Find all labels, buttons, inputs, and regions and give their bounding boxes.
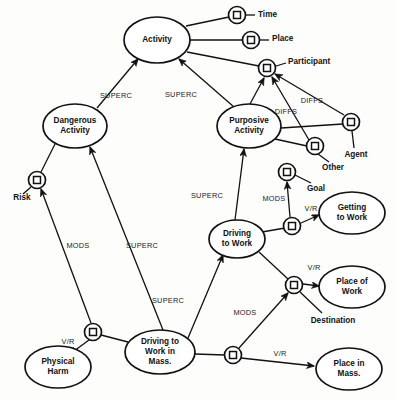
concept-label: Gettingto Work xyxy=(337,203,368,222)
graph-edge xyxy=(188,255,223,338)
edge-label: V/R xyxy=(62,337,75,346)
attribute-label: Time xyxy=(258,10,277,19)
concept-node[interactable]: Driving toWork inMass. xyxy=(125,330,195,374)
edge-label: DIFFS xyxy=(301,96,323,105)
relation-node[interactable] xyxy=(284,218,301,235)
concept-label: Activity xyxy=(142,35,172,44)
concept-nodes-layer: ActivityDangerousActivityPurposiveActivi… xyxy=(25,17,385,390)
relation-node[interactable] xyxy=(85,324,102,341)
relation-node[interactable] xyxy=(307,138,324,155)
concept-node[interactable]: PhysicalHarm xyxy=(25,346,91,388)
edge-label: SUPERC xyxy=(152,296,184,305)
graph-edge xyxy=(259,252,288,279)
edge-label: SUPERC xyxy=(126,241,158,250)
concept-node[interactable]: Drivingto Work xyxy=(209,220,265,258)
relation-square-icon xyxy=(264,65,271,72)
graph-edge xyxy=(281,124,343,128)
edge-label: SUPERC xyxy=(100,91,132,100)
relation-node[interactable] xyxy=(279,164,296,181)
edge-label: V/R xyxy=(274,349,287,358)
graph-edge xyxy=(239,293,288,348)
relation-square-icon xyxy=(34,177,41,184)
concept-node[interactable]: PurposiveActivity xyxy=(217,104,281,148)
relation-node[interactable] xyxy=(229,7,246,24)
relation-square-icon xyxy=(284,169,291,176)
relation-node[interactable] xyxy=(29,172,46,189)
graph-edge xyxy=(241,358,314,366)
graph-edge xyxy=(195,354,225,355)
relation-square-icon xyxy=(312,143,319,150)
edge-label: V/R xyxy=(308,263,321,272)
relation-square-icon xyxy=(289,223,296,230)
graph-edge xyxy=(287,182,290,217)
edges-layer xyxy=(23,15,354,366)
concept-node[interactable]: Place inMass. xyxy=(316,348,382,390)
concept-label: PurposiveActivity xyxy=(229,116,269,135)
relation-square-icon xyxy=(248,37,255,44)
attribute-label: Risk xyxy=(13,193,31,202)
graph-edge xyxy=(262,228,285,232)
graph-edge xyxy=(235,149,244,220)
concept-node[interactable]: DangerousActivity xyxy=(43,104,107,148)
attribute-label: Agent xyxy=(344,150,367,159)
graph-edge xyxy=(179,59,234,107)
relation-node[interactable] xyxy=(243,32,260,49)
diagram-canvas: ActivityDangerousActivityPurposiveActivi… xyxy=(0,0,396,400)
graph-edge xyxy=(97,59,138,108)
edge-label: SUPERC xyxy=(165,90,197,99)
graph-edge xyxy=(41,142,56,172)
attribute-label: Participant xyxy=(288,57,331,66)
edge-label: V/R xyxy=(305,204,318,213)
graph-edge xyxy=(250,78,264,104)
graph-edge xyxy=(187,52,259,66)
relation-square-icon xyxy=(234,12,241,19)
graph-edge xyxy=(41,189,91,323)
edge-label: SUPERC xyxy=(191,191,223,200)
edge-label: MODS xyxy=(263,194,286,203)
graph-edge xyxy=(275,139,307,146)
graph-edge xyxy=(300,292,322,313)
edge-label: MODS xyxy=(67,241,90,250)
concept-node[interactable]: Activity xyxy=(124,17,190,63)
concept-label: Drivingto Work xyxy=(222,229,253,248)
concept-node[interactable]: Gettingto Work xyxy=(319,192,385,234)
edge-label: DIFFS xyxy=(275,107,297,116)
relation-square-icon xyxy=(90,329,97,336)
graph-edge xyxy=(303,284,319,286)
attribute-label: Destination xyxy=(311,316,356,325)
semantic-network-graph: ActivityDangerousActivityPurposiveActivi… xyxy=(0,0,396,400)
concept-node[interactable]: Place ofWork xyxy=(319,266,385,308)
relation-node[interactable] xyxy=(286,277,303,294)
graph-edge xyxy=(352,131,354,148)
graph-edge xyxy=(186,17,229,26)
graph-edge xyxy=(301,215,319,223)
graph-edge xyxy=(318,154,329,162)
concept-label: Place inMass. xyxy=(334,359,365,378)
graph-edge xyxy=(276,63,286,66)
graph-edge xyxy=(295,175,311,183)
attribute-labels-layer: TimePlaceParticipantAgentOtherGoalRiskDe… xyxy=(13,10,368,325)
graph-edge xyxy=(101,335,128,342)
relation-node[interactable] xyxy=(259,60,276,77)
relation-square-icon xyxy=(291,282,298,289)
attribute-label: Place xyxy=(272,34,294,43)
attribute-label: Other xyxy=(322,163,345,172)
attribute-label: Goal xyxy=(307,184,325,193)
relation-square-icon xyxy=(348,119,355,126)
relation-node[interactable] xyxy=(343,114,360,131)
relation-node[interactable] xyxy=(225,347,242,364)
relation-square-icon xyxy=(230,352,237,359)
edge-label: MODS xyxy=(234,308,257,317)
